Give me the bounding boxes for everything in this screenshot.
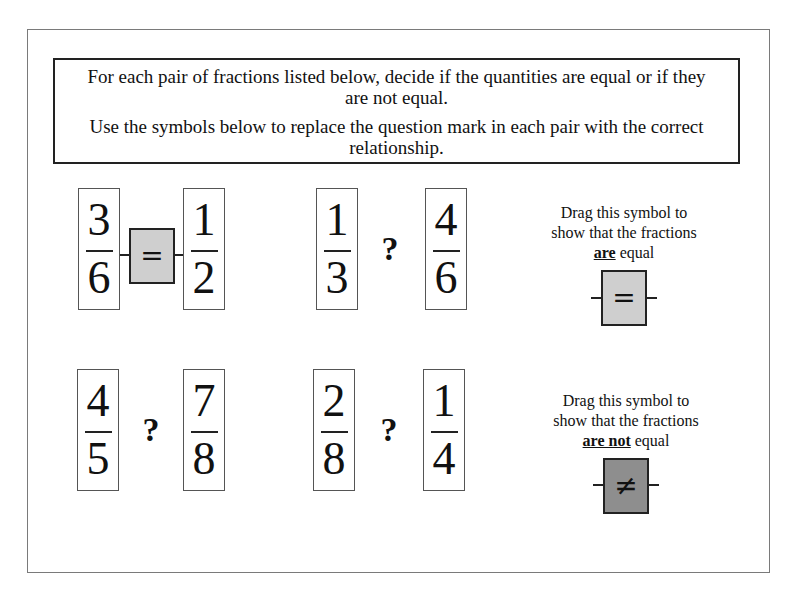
- numerator: 1: [184, 197, 224, 243]
- emphasis-text: are: [594, 244, 616, 261]
- instruction-line-2: Use the symbols below to replace the que…: [75, 116, 718, 158]
- palette-suffix: equal: [616, 244, 655, 261]
- denominator: 5: [78, 436, 118, 482]
- denominator: 4: [424, 436, 464, 482]
- relation-drop-target-pair-2[interactable]: ?: [375, 232, 405, 266]
- equal-symbol-instructions: Drag this symbol to show that the fracti…: [524, 203, 724, 263]
- palette-text-line: Drag this symbol to: [526, 391, 726, 411]
- fraction-right-pair-1: 1 2: [183, 188, 225, 310]
- fraction-right-pair-4: 1 4: [423, 369, 465, 491]
- relation-drop-target-pair-4[interactable]: ?: [374, 413, 404, 447]
- palette-text-line: Drag this symbol to: [524, 203, 724, 223]
- fraction-left-pair-2: 1 3: [316, 188, 358, 310]
- denominator: 8: [184, 436, 224, 482]
- instruction-line-1: For each pair of fractions listed below,…: [75, 66, 718, 108]
- numerator: 1: [424, 378, 464, 424]
- draggable-equal-symbol[interactable]: =: [601, 270, 647, 326]
- emphasis-text: are not: [583, 432, 631, 449]
- numerator: 1: [317, 197, 357, 243]
- palette-suffix: equal: [631, 432, 670, 449]
- fraction-right-pair-3: 7 8: [183, 369, 225, 491]
- connector-line: [591, 297, 601, 299]
- palette-text-line: show that the fractions: [526, 411, 726, 431]
- denominator: 6: [79, 255, 119, 301]
- denominator: 3: [317, 255, 357, 301]
- numerator: 4: [426, 197, 466, 243]
- numerator: 2: [314, 378, 354, 424]
- numerator: 3: [79, 197, 119, 243]
- denominator: 8: [314, 436, 354, 482]
- fraction-left-pair-1: 3 6: [78, 188, 120, 310]
- equals-icon: =: [603, 272, 645, 324]
- equals-icon: =: [131, 230, 173, 282]
- numerator: 7: [184, 378, 224, 424]
- numerator: 4: [78, 378, 118, 424]
- connector-line: [175, 254, 183, 256]
- instructions-box: For each pair of fractions listed below,…: [53, 58, 740, 164]
- denominator: 2: [184, 255, 224, 301]
- denominator: 6: [426, 255, 466, 301]
- fraction-right-pair-2: 4 6: [425, 188, 467, 310]
- palette-text-line: are equal: [524, 243, 724, 263]
- connector-line: [649, 484, 659, 486]
- fraction-left-pair-4: 2 8: [313, 369, 355, 491]
- placed-equal-symbol[interactable]: =: [129, 228, 175, 284]
- relation-drop-target-pair-3[interactable]: ?: [136, 413, 166, 447]
- not-equal-symbol-instructions: Drag this symbol to show that the fracti…: [526, 391, 726, 451]
- palette-text-line: show that the fractions: [524, 223, 724, 243]
- not-equal-icon: ≠: [605, 460, 647, 512]
- fraction-left-pair-3: 4 5: [77, 369, 119, 491]
- connector-line: [593, 484, 603, 486]
- palette-text-line: are not equal: [526, 431, 726, 451]
- connector-line: [647, 297, 657, 299]
- draggable-not-equal-symbol[interactable]: ≠: [603, 458, 649, 514]
